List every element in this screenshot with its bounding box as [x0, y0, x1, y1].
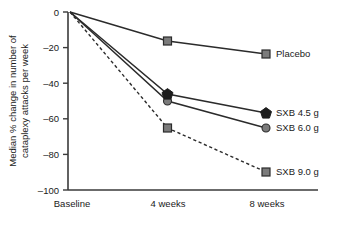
y-tick-label-1: –20 [43, 42, 59, 53]
chart-canvas: Median % change in number of cataplexy a… [0, 0, 342, 227]
y-axis-title: Median % change in number of cataplexy a… [7, 35, 30, 167]
y-tick-label-4: –80 [43, 149, 59, 160]
x-tick-label-8-weeks: 8 weeks [250, 198, 285, 209]
y-tick-label-0: 0 [54, 7, 59, 18]
data-point-placebo-4-weeks [164, 37, 172, 45]
y-axis-title-line1: Median % change in number of [7, 35, 18, 167]
series-line-placebo [70, 12, 266, 54]
data-point-sxb-6-0-g-8-weeks [262, 124, 270, 132]
legend: Placebo SXB 4.5 g SXB 6.0 g SXB 9.0 g [276, 48, 319, 177]
series-line-sxb-6-0-g [70, 12, 266, 128]
y-tick-label-3: –60 [43, 113, 59, 124]
data-point-sxb-9-0-g-8-weeks [262, 168, 270, 176]
legend-label-sxb-6-0-g: SXB 6.0 g [276, 122, 319, 133]
x-axis-ticks: Baseline 4 weeks 8 weeks [54, 198, 285, 209]
y-axis-ticks: 0 –20 –40 –60 –80 –100 [38, 7, 68, 196]
series-placebo [70, 12, 270, 58]
legend-label-sxb-4-5-g: SXB 4.5 g [276, 107, 319, 118]
x-tick-label-baseline: Baseline [54, 198, 90, 209]
y-tick-label-5: –100 [38, 185, 59, 196]
y-tick-label-2: –40 [43, 78, 59, 89]
data-point-placebo-8-weeks [262, 50, 270, 58]
legend-label-sxb-9-0-g: SXB 9.0 g [276, 166, 319, 177]
y-axis-title-line2: cataplexy attacks per week [19, 44, 30, 158]
x-tick-label-4-weeks: 4 weeks [151, 198, 186, 209]
series-sxb-6-0-g [70, 12, 270, 132]
data-point-sxb-4-5-g-8-weeks [261, 108, 272, 119]
data-point-sxb-9-0-g-4-weeks [164, 124, 172, 132]
cataplexy-line-chart-figure: Median % change in number of cataplexy a… [0, 0, 342, 227]
legend-label-placebo: Placebo [276, 48, 310, 59]
